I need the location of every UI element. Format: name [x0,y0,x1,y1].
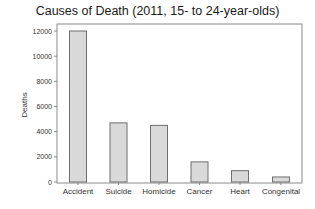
bar-cancer [191,162,208,182]
x-tick-label: Suicide [105,187,132,196]
bar-suicide [110,123,127,182]
x-tick-label: Homicide [142,187,176,196]
y-tick-label: 0 [48,179,52,186]
bar-chart: 020004000600080001000012000AccidentSuici… [0,0,315,209]
y-tick-label: 10000 [33,53,53,60]
x-tick-label: Heart [230,187,250,196]
bar-accident [70,31,87,182]
y-tick-label: 6000 [36,103,52,110]
bar-congenital [273,177,290,182]
y-tick-label: 12000 [33,28,53,35]
x-tick-label: Congenital [262,187,300,196]
y-tick-label: 4000 [36,128,52,135]
y-tick-label: 8000 [36,78,52,85]
bar-heart [232,171,249,182]
plot-frame [57,24,302,183]
y-tick-label: 2000 [36,153,52,160]
x-tick-label: Cancer [187,187,213,196]
bar-homicide [151,125,168,182]
plot-area: 020004000600080001000012000AccidentSuici… [33,24,302,196]
x-tick-label: Accident [63,187,94,196]
